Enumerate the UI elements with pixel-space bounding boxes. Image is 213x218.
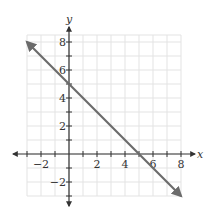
x-tick-label: 8 [178, 158, 185, 171]
x-tick-label: 2 [94, 158, 101, 171]
y-tick-label: 8 [59, 36, 66, 49]
y-tick-label: 4 [59, 92, 66, 105]
coordinate-plane: −22468−22468 x y [0, 0, 213, 218]
plotted-line [27, 42, 181, 196]
y-tick-label: 2 [59, 120, 66, 133]
y-axis-label: y [65, 13, 73, 26]
data-line [27, 42, 181, 196]
x-tick-label: −2 [33, 158, 49, 171]
x-tick-label: 4 [122, 158, 129, 171]
y-tick-label: −2 [50, 176, 66, 189]
x-axis-label: x [197, 148, 204, 161]
